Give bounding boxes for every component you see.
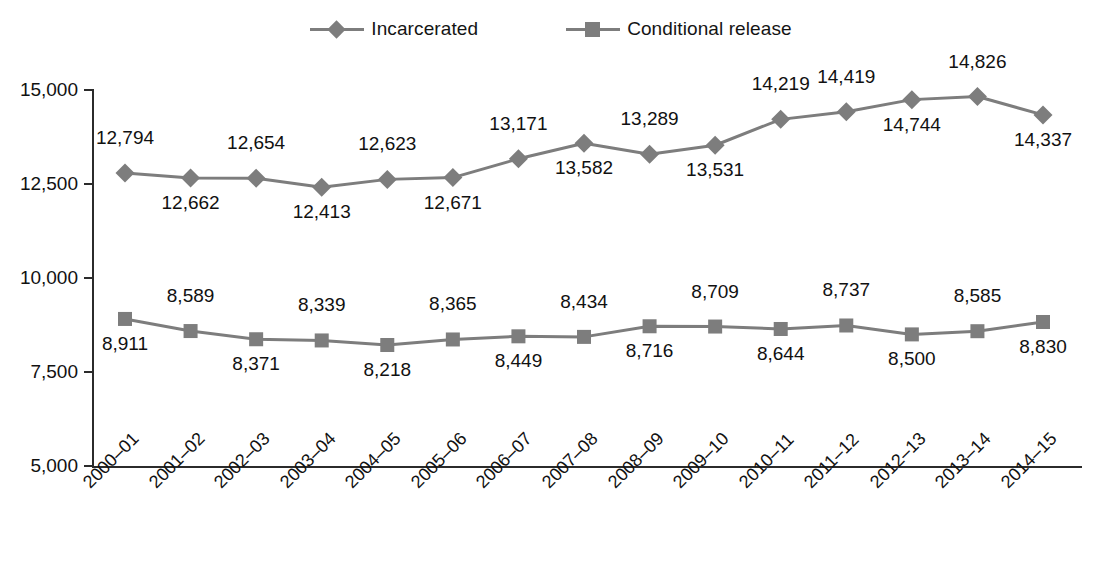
data-point-label: 8,737 (823, 279, 871, 301)
data-point-label: 8,585 (954, 285, 1002, 307)
data-point-label: 8,500 (888, 348, 936, 370)
data-point-label: 8,434 (560, 291, 608, 313)
diamond-marker-icon[interactable] (706, 136, 725, 155)
square-marker-icon[interactable] (708, 320, 722, 334)
data-point-label: 8,830 (1019, 336, 1067, 358)
diamond-marker-icon[interactable] (378, 170, 397, 189)
data-point-label: 13,171 (489, 113, 547, 135)
data-point-label: 14,826 (948, 51, 1006, 73)
data-point-label: 8,644 (757, 343, 805, 365)
data-point-label: 8,339 (298, 294, 346, 316)
diamond-marker-icon[interactable] (575, 134, 594, 153)
diamond-marker-icon[interactable] (181, 168, 200, 187)
data-point-label: 8,911 (102, 333, 148, 355)
data-point-label: 8,371 (232, 353, 280, 375)
data-point-label: 8,589 (167, 285, 215, 307)
square-marker-icon[interactable] (118, 312, 132, 326)
diamond-marker-icon[interactable] (247, 169, 266, 188)
data-point-label: 12,794 (96, 127, 154, 149)
line-chart: IncarceratedConditional release 15,00012… (0, 0, 1102, 573)
data-point-label: 14,219 (752, 73, 810, 95)
diamond-marker-icon[interactable] (509, 149, 528, 168)
diamond-marker-icon[interactable] (902, 90, 921, 109)
square-marker-icon[interactable] (839, 318, 853, 332)
data-point-label: 14,419 (817, 66, 875, 88)
data-point-label: 13,582 (555, 157, 613, 179)
data-point-label: 12,413 (293, 201, 351, 223)
square-marker-icon[interactable] (905, 327, 919, 341)
diamond-marker-icon[interactable] (116, 163, 135, 182)
square-marker-icon[interactable] (577, 330, 591, 344)
data-point-label: 12,671 (424, 192, 482, 214)
data-point-label: 12,662 (162, 192, 220, 214)
square-marker-icon[interactable] (970, 324, 984, 338)
data-point-label: 14,744 (883, 114, 941, 136)
square-marker-icon[interactable] (643, 319, 657, 333)
diamond-marker-icon[interactable] (640, 145, 659, 164)
data-point-label: 14,337 (1014, 129, 1072, 151)
data-point-label: 8,716 (626, 340, 674, 362)
square-marker-icon[interactable] (511, 329, 525, 343)
square-marker-icon[interactable] (315, 333, 329, 347)
data-point-label: 12,654 (227, 132, 285, 154)
data-point-label: 13,289 (621, 108, 679, 130)
data-point-label: 8,365 (429, 293, 477, 315)
square-marker-icon[interactable] (1036, 315, 1050, 329)
data-point-label: 8,218 (364, 359, 412, 381)
square-marker-icon[interactable] (249, 332, 263, 346)
data-point-label: 8,709 (691, 281, 739, 303)
diamond-marker-icon[interactable] (771, 110, 790, 129)
square-marker-icon[interactable] (380, 338, 394, 352)
square-marker-icon[interactable] (774, 322, 788, 336)
diamond-marker-icon[interactable] (312, 178, 331, 197)
data-point-label: 8,449 (495, 350, 543, 372)
square-marker-icon[interactable] (446, 332, 460, 346)
square-marker-icon[interactable] (184, 324, 198, 338)
plot-area: 15,00012,50010,0007,5005,000 12,79412,66… (0, 0, 1102, 573)
diamond-marker-icon[interactable] (968, 87, 987, 106)
diamond-marker-icon[interactable] (443, 168, 462, 187)
data-point-label: 13,531 (686, 159, 744, 181)
diamond-marker-icon[interactable] (837, 102, 856, 121)
series-conditional-release (118, 312, 1050, 352)
data-point-label: 12,623 (358, 133, 416, 155)
diamond-marker-icon[interactable] (1034, 105, 1053, 124)
